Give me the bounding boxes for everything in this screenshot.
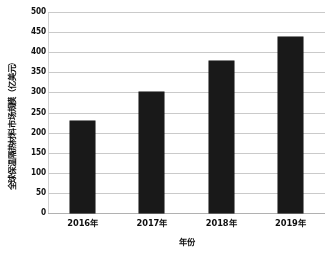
- bar: [139, 92, 164, 213]
- bar: [209, 61, 234, 213]
- x-axis-title: 年份: [48, 236, 325, 248]
- x-axis-tick-label: 2018年: [187, 216, 256, 230]
- x-axis-tick-labels: 2016年2017年2018年2019年: [48, 216, 325, 230]
- y-axis-tick-label: 450: [20, 28, 46, 36]
- bar: [70, 121, 95, 213]
- bar-slot: [256, 12, 325, 213]
- y-axis-tick-label: 50: [20, 189, 46, 197]
- y-axis-tick-label: 150: [20, 149, 46, 157]
- bar-slot: [117, 12, 186, 213]
- x-axis-tick-label: 2019年: [256, 216, 325, 230]
- axis-baseline: [48, 213, 325, 214]
- y-axis-tick-label: 0: [20, 209, 46, 217]
- y-axis-tick-label: 350: [20, 68, 46, 76]
- x-axis-tick-label: 2017年: [117, 216, 186, 230]
- bar-series: [48, 12, 325, 213]
- y-axis-tick-label: 250: [20, 109, 46, 117]
- bar: [278, 37, 303, 213]
- y-axis-tick-label: 400: [20, 48, 46, 56]
- bar-chart: 全球保温隔热材料市场规模（亿美元） 5004504003503002502001…: [0, 0, 333, 258]
- y-axis-tick-label: 200: [20, 129, 46, 137]
- y-axis-tick-label: 500: [20, 8, 46, 16]
- bar-slot: [187, 12, 256, 213]
- y-axis-tick-label: 300: [20, 88, 46, 96]
- y-axis-tick-label: 100: [20, 169, 46, 177]
- bar-slot: [48, 12, 117, 213]
- plot-area: [48, 12, 325, 213]
- y-axis-tick-labels: 500450400350300250200150100500: [18, 12, 46, 213]
- x-axis-tick-label: 2016年: [48, 216, 117, 230]
